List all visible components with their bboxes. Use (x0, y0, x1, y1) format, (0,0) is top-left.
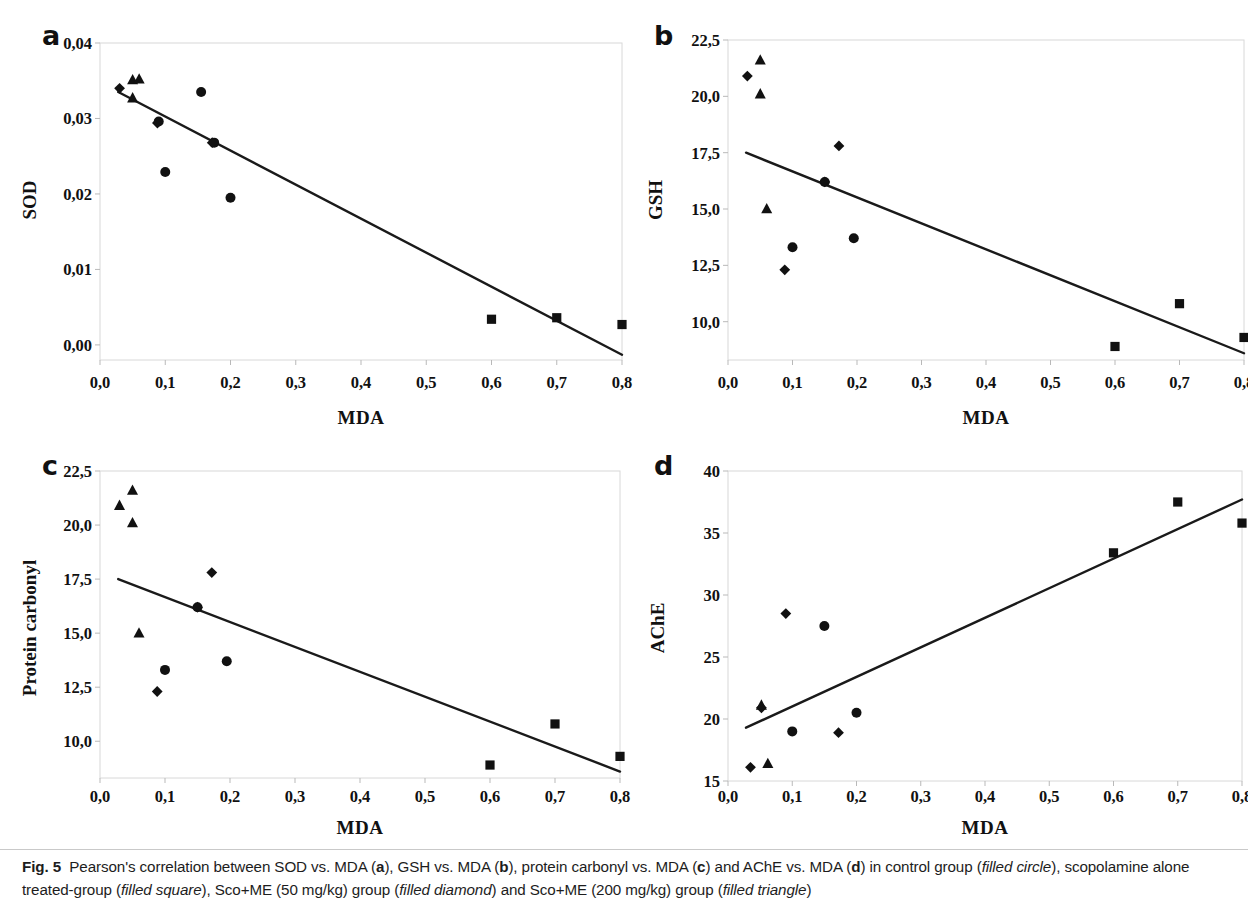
y-tick-label: 17,5 (691, 144, 720, 163)
plot-frame (100, 43, 622, 360)
caption-text-1: Pearson's correlation between SOD vs. MD… (69, 858, 376, 875)
caption-marker-circle: filled circle (982, 858, 1052, 875)
panel-grid: a 0,000,010,020,030,040,00,10,20,30,40,5… (0, 0, 1248, 845)
x-tick-label: 0,6 (1103, 787, 1124, 806)
caption-divider (0, 849, 1248, 850)
data-point-circle (852, 708, 862, 718)
x-tick-label: 0,3 (285, 373, 306, 392)
caption-marker-triangle: filled triangle (723, 881, 807, 898)
x-axis-title: MDA (337, 817, 384, 838)
data-point-square (487, 315, 496, 324)
data-points-group (742, 54, 1248, 351)
y-tick-label: 12,5 (63, 678, 92, 697)
x-tick-label: 0,0 (90, 373, 111, 392)
x-tick-label: 0,1 (782, 787, 803, 806)
y-tick-label: 12,5 (691, 256, 720, 275)
data-point-diamond (742, 71, 753, 82)
scatter-plot-c: 10,012,515,017,520,022,50,00,10,20,30,40… (0, 438, 624, 845)
data-point-diamond (114, 83, 125, 94)
y-tick-label: 25 (704, 648, 721, 667)
y-tick-label: 20,0 (63, 516, 92, 535)
caption-text-8: ) and Sco+ME (200 mg/kg) group ( (492, 881, 723, 898)
data-point-triangle (756, 699, 767, 709)
data-point-circle (788, 242, 798, 252)
x-tick-label: 0,2 (220, 373, 241, 392)
panel-b: b 10,012,515,017,520,022,50,00,10,20,30,… (624, 0, 1248, 438)
data-point-circle (160, 167, 170, 177)
x-tick-label: 0,6 (480, 787, 501, 806)
y-axis-title: SOD (19, 180, 40, 219)
y-tick-label: 0,00 (63, 336, 92, 355)
data-points-group (114, 73, 626, 329)
x-tick-label: 0,3 (911, 373, 932, 392)
data-point-diamond (779, 264, 790, 275)
figure-label: Fig. 5 (22, 858, 61, 875)
data-point-circle (787, 726, 797, 736)
data-point-circle (226, 193, 236, 203)
x-tick-label: 0,4 (350, 787, 371, 806)
data-point-diamond (780, 608, 791, 619)
x-tick-label: 0,4 (351, 373, 372, 392)
panel-c: c 10,012,515,017,520,022,50,00,10,20,30,… (0, 438, 624, 845)
y-axis-title: GSH (645, 180, 666, 220)
data-point-diamond (834, 141, 845, 152)
plot-frame (728, 471, 1242, 781)
caption-marker-diamond: filled diamond (399, 881, 491, 898)
y-tick-label: 15,0 (63, 624, 92, 643)
x-tick-label: 0,0 (90, 787, 111, 806)
data-points-group (114, 484, 625, 769)
y-tick-label: 0,04 (63, 34, 92, 53)
scatter-plot-b: 10,012,515,017,520,022,50,00,10,20,30,40… (624, 0, 1248, 438)
data-point-square (485, 760, 494, 769)
data-point-square (1109, 548, 1118, 557)
scatter-plot-d: 1520253035400,00,10,20,30,40,50,60,70,8M… (624, 438, 1248, 845)
y-axis-title: AChE (647, 603, 668, 654)
x-tick-label: 0,4 (975, 787, 996, 806)
data-point-diamond (206, 567, 217, 578)
y-tick-label: 20,0 (691, 87, 720, 106)
x-tick-label: 0,0 (718, 373, 739, 392)
data-point-square (552, 313, 561, 322)
data-point-triangle (114, 500, 125, 510)
data-point-circle (160, 665, 170, 675)
data-point-square (1110, 342, 1119, 351)
x-tick-label: 0,1 (155, 787, 176, 806)
x-axis-title: MDA (338, 407, 385, 428)
data-point-square (1175, 299, 1184, 308)
data-point-triangle (127, 484, 138, 494)
y-tick-label: 10,0 (691, 313, 720, 332)
x-tick-label: 0,7 (1167, 787, 1188, 806)
caption-marker-square: filled square (121, 881, 202, 898)
caption-text-5: ) in control group ( (860, 858, 981, 875)
x-tick-label: 0,6 (1105, 373, 1126, 392)
regression-line (746, 500, 1242, 728)
x-tick-label: 0,1 (155, 373, 176, 392)
x-tick-label: 0,8 (1232, 787, 1248, 806)
data-point-square (1237, 518, 1246, 527)
y-tick-label: 10,0 (63, 732, 92, 751)
data-point-triangle (133, 627, 144, 637)
y-tick-label: 0,01 (63, 260, 92, 279)
x-tick-label: 0,2 (847, 373, 868, 392)
y-tick-label: 15,0 (691, 200, 720, 219)
y-tick-label: 0,02 (63, 185, 92, 204)
y-tick-label: 30 (704, 586, 721, 605)
caption-text-4: ) and AChE vs. MDA ( (705, 858, 851, 875)
x-tick-label: 0,2 (846, 787, 867, 806)
data-point-square (550, 719, 559, 728)
data-point-triangle (761, 203, 772, 213)
figure-caption: Fig. 5 Pearson's correlation between SOD… (22, 855, 1226, 901)
x-tick-label: 0,6 (481, 373, 502, 392)
x-tick-label: 0,5 (1039, 787, 1060, 806)
plot-frame (728, 40, 1244, 360)
data-point-diamond (833, 727, 844, 738)
panel-a: a 0,000,010,020,030,040,00,10,20,30,40,5… (0, 0, 624, 438)
x-tick-label: 0,5 (416, 373, 437, 392)
y-tick-label: 22,5 (691, 31, 720, 50)
y-tick-label: 20 (704, 710, 721, 729)
scatter-plot-a: 0,000,010,020,030,040,00,10,20,30,40,50,… (0, 0, 624, 438)
y-tick-label: 35 (704, 524, 721, 543)
data-point-circle (849, 233, 859, 243)
x-tick-label: 0,4 (976, 373, 997, 392)
data-point-circle (222, 656, 232, 666)
